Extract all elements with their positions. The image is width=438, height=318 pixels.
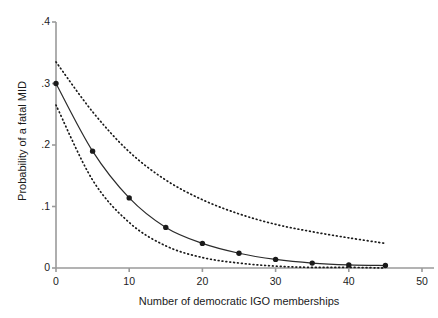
data-point-marker bbox=[383, 263, 388, 268]
y-tick-label: .4 bbox=[14, 15, 50, 27]
x-tick-label: 0 bbox=[36, 275, 76, 287]
data-point-marker bbox=[53, 81, 58, 86]
x-tick-label: 10 bbox=[109, 275, 149, 287]
y-tick-label: 0 bbox=[14, 261, 50, 273]
x-tick-label: 30 bbox=[256, 275, 296, 287]
data-point-marker bbox=[200, 241, 205, 246]
y-tick-label: .1 bbox=[14, 200, 50, 212]
x-tick-label: 20 bbox=[182, 275, 222, 287]
data-point-marker bbox=[346, 262, 351, 267]
data-point-marker bbox=[127, 195, 132, 200]
data-point-marker bbox=[310, 260, 315, 265]
y-tick-label: .3 bbox=[14, 77, 50, 89]
data-point-markers bbox=[53, 81, 388, 268]
upper-confidence-band bbox=[56, 62, 385, 243]
data-point-marker bbox=[273, 257, 278, 262]
data-point-marker bbox=[90, 148, 95, 153]
data-point-marker bbox=[163, 225, 168, 230]
x-tick-label: 50 bbox=[402, 275, 438, 287]
x-tick-label: 40 bbox=[329, 275, 369, 287]
x-axis-label: Number of democratic IGO memberships bbox=[56, 295, 422, 307]
y-tick-label: .2 bbox=[14, 138, 50, 150]
lower-confidence-band bbox=[56, 105, 385, 268]
figure-canvas: Probability of a fatal MID Number of dem… bbox=[0, 0, 438, 318]
data-point-marker bbox=[236, 251, 241, 256]
predicted-probability-line bbox=[56, 84, 385, 266]
chart-plot-area bbox=[0, 0, 438, 318]
